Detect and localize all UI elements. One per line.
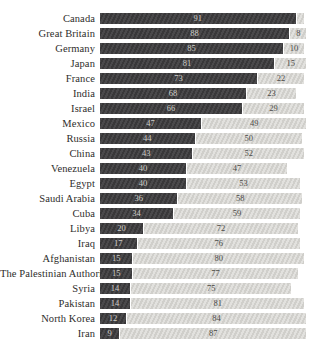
light-bar-segment bbox=[296, 13, 305, 24]
bar-row: The Palestinian Authority 15 77 bbox=[0, 266, 324, 281]
bar-track: 43 52 bbox=[100, 148, 315, 159]
light-bar-segment: 77 bbox=[132, 268, 298, 279]
category-label: Israel bbox=[0, 103, 100, 114]
bar-row: Germany 85 10 bbox=[0, 41, 324, 56]
bar-track: 14 75 bbox=[100, 283, 315, 294]
bar-row: Iraq 17 76 bbox=[0, 236, 324, 251]
light-segment-value: 76 bbox=[214, 238, 223, 249]
light-bar-segment: 29 bbox=[242, 103, 304, 114]
category-label: Mexico bbox=[0, 118, 100, 129]
category-label: Japan bbox=[0, 58, 100, 69]
dark-bar-segment: 40 bbox=[100, 178, 186, 189]
bar-track: 17 76 bbox=[100, 238, 315, 249]
light-segment-value: 87 bbox=[209, 328, 218, 339]
bar-track: 34 59 bbox=[100, 208, 315, 219]
category-label: France bbox=[0, 73, 100, 84]
dark-bar-segment: 12 bbox=[100, 313, 126, 324]
dark-bar-segment: 68 bbox=[100, 88, 246, 99]
bar-track: 9 87 bbox=[100, 328, 315, 339]
light-bar-segment: 81 bbox=[130, 298, 304, 309]
dark-bar-segment: 34 bbox=[100, 208, 173, 219]
bar-row: Libya 20 72 bbox=[0, 221, 324, 236]
light-segment-value: 53 bbox=[239, 178, 248, 189]
light-bar-segment: 49 bbox=[201, 118, 306, 129]
bar-track: 81 15 bbox=[100, 58, 315, 69]
dark-bar-segment: 9 bbox=[100, 328, 119, 339]
category-label: India bbox=[0, 88, 100, 99]
light-segment-value: 81 bbox=[213, 298, 222, 309]
light-bar-segment: 8 bbox=[289, 28, 306, 39]
light-bar-segment: 47 bbox=[186, 163, 287, 174]
light-bar-segment: 58 bbox=[177, 193, 302, 204]
category-label: Iran bbox=[0, 328, 100, 339]
dark-segment-value: 40 bbox=[139, 163, 148, 174]
dark-segment-value: 9 bbox=[108, 328, 112, 339]
light-bar-segment: 87 bbox=[119, 328, 306, 339]
category-label: Egypt bbox=[0, 178, 100, 189]
category-label: The Palestinian Authority bbox=[0, 268, 100, 279]
bar-row: India 68 23 bbox=[0, 86, 324, 101]
bar-track: 36 58 bbox=[100, 193, 315, 204]
light-segment-value: 50 bbox=[245, 133, 254, 144]
bar-row: Canada 91 bbox=[0, 11, 324, 26]
bar-row: Iran 9 87 bbox=[0, 326, 324, 341]
bar-row: Egypt 40 53 bbox=[0, 176, 324, 191]
bar-track: 12 84 bbox=[100, 313, 315, 324]
light-segment-value: 49 bbox=[250, 118, 259, 129]
light-segment-value: 29 bbox=[269, 103, 278, 114]
light-bar-segment: 15 bbox=[274, 58, 306, 69]
light-segment-value: 72 bbox=[217, 223, 226, 234]
dark-segment-value: 91 bbox=[194, 13, 203, 24]
light-bar-segment: 50 bbox=[195, 133, 303, 144]
dark-segment-value: 14 bbox=[111, 298, 120, 309]
dark-bar-segment: 66 bbox=[100, 103, 242, 114]
light-bar-segment: 84 bbox=[126, 313, 307, 324]
light-bar-segment: 80 bbox=[132, 253, 304, 264]
light-bar-segment: 10 bbox=[283, 43, 305, 54]
dark-bar-segment: 14 bbox=[100, 298, 130, 309]
dark-bar-segment: 36 bbox=[100, 193, 177, 204]
country-opinion-stacked-bar-chart: Canada 91 Great Britain 88 8 Germany 85 bbox=[0, 0, 324, 347]
light-segment-value: 75 bbox=[207, 283, 216, 294]
bar-track: 47 49 bbox=[100, 118, 315, 129]
bar-row: North Korea 12 84 bbox=[0, 311, 324, 326]
bar-track: 66 29 bbox=[100, 103, 315, 114]
category-label: Canada bbox=[0, 13, 100, 24]
bar-track: 44 50 bbox=[100, 133, 315, 144]
category-label: Venezuela bbox=[0, 163, 100, 174]
dark-segment-value: 34 bbox=[132, 208, 141, 219]
category-label: Syria bbox=[0, 283, 100, 294]
bar-track: 15 77 bbox=[100, 268, 315, 279]
bar-row: Cuba 34 59 bbox=[0, 206, 324, 221]
dark-segment-value: 36 bbox=[134, 193, 143, 204]
bar-track: 73 22 bbox=[100, 73, 315, 84]
dark-segment-value: 15 bbox=[112, 268, 121, 279]
light-segment-value: 15 bbox=[287, 58, 296, 69]
light-bar-segment: 59 bbox=[173, 208, 300, 219]
dark-segment-value: 15 bbox=[112, 253, 121, 264]
bar-track: 40 47 bbox=[100, 163, 315, 174]
bar-track: 68 23 bbox=[100, 88, 315, 99]
category-label: North Korea bbox=[0, 313, 100, 324]
bar-track: 20 72 bbox=[100, 223, 315, 234]
dark-segment-value: 47 bbox=[146, 118, 155, 129]
light-segment-value: 10 bbox=[290, 43, 299, 54]
dark-bar-segment: 40 bbox=[100, 163, 186, 174]
dark-bar-segment: 81 bbox=[100, 58, 274, 69]
bar-track: 88 8 bbox=[100, 28, 315, 39]
dark-bar-segment: 47 bbox=[100, 118, 201, 129]
category-label: Cuba bbox=[0, 208, 100, 219]
bar-track: 14 81 bbox=[100, 298, 315, 309]
light-segment-value: 8 bbox=[296, 28, 300, 39]
light-segment-value: 59 bbox=[233, 208, 242, 219]
category-label: Great Britain bbox=[0, 28, 100, 39]
dark-segment-value: 88 bbox=[190, 28, 199, 39]
dark-segment-value: 20 bbox=[117, 223, 126, 234]
dark-segment-value: 17 bbox=[114, 238, 123, 249]
bar-row: France 73 22 bbox=[0, 71, 324, 86]
bar-row: Syria 14 75 bbox=[0, 281, 324, 296]
light-segment-value: 23 bbox=[267, 88, 276, 99]
bar-track: 85 10 bbox=[100, 43, 315, 54]
bar-track: 91 bbox=[100, 13, 315, 24]
light-segment-value: 80 bbox=[215, 253, 224, 264]
